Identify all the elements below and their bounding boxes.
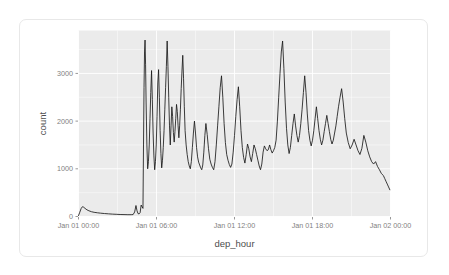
line-chart: Jan 01 00:00Jan 01 06:00Jan 01 12:00Jan …: [0, 0, 449, 275]
x-tick-label: Jan 01 18:00: [292, 221, 334, 230]
x-tick-label: Jan 01 00:00: [58, 221, 100, 230]
y-axis-ticks: [76, 73, 79, 216]
x-tick-label: Jan 02 00:00: [370, 221, 412, 230]
y-tick-label: 3000: [57, 69, 73, 78]
y-tick-label: 1000: [57, 164, 73, 173]
y-axis-title: count: [37, 112, 48, 136]
x-axis-ticks: [79, 217, 391, 220]
x-axis-tick-labels: Jan 01 00:00Jan 01 06:00Jan 01 12:00Jan …: [58, 221, 412, 230]
x-tick-label: Jan 01 12:00: [214, 221, 256, 230]
y-axis-tick-labels: 0100020003000: [57, 69, 73, 221]
y-tick-label: 0: [69, 212, 73, 221]
x-axis-title: dep_hour: [214, 238, 254, 249]
y-tick-label: 2000: [57, 117, 73, 126]
x-tick-label: Jan 01 06:00: [136, 221, 178, 230]
